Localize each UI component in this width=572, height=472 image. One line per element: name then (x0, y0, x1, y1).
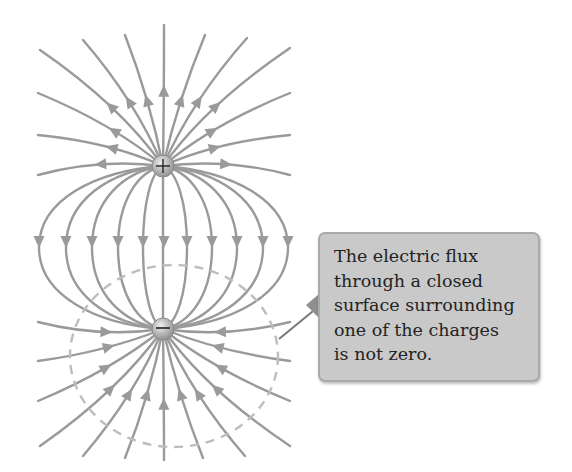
field-line (92, 166, 163, 329)
arrow-icon (190, 386, 206, 402)
arrow-icon (214, 326, 226, 337)
field-line (163, 38, 247, 166)
arrow-icon (210, 340, 224, 354)
arrow-icon (140, 387, 154, 402)
field-line (163, 329, 164, 460)
field-line (38, 329, 163, 401)
arrow-icon (94, 158, 107, 170)
field-line (163, 166, 237, 329)
callout-line-1: The electric flux (334, 244, 528, 269)
arrow-icon (208, 141, 222, 155)
arrow-icon (34, 236, 45, 248)
arrow-icon (98, 360, 114, 376)
arrow-icon (106, 123, 122, 139)
field-line (143, 166, 163, 329)
callout-box: The electric flux through a closed surfa… (318, 232, 540, 382)
callout-line-3: surface surrounding (334, 293, 528, 318)
arrow-icon (232, 236, 243, 248)
callout-line-5: is not zero. (334, 342, 528, 367)
arrow-icon (258, 236, 269, 248)
callout-text: The electric flux through a closed surfa… (334, 244, 528, 367)
arrow-icon (87, 236, 98, 248)
arrow-icon (174, 93, 188, 108)
arrow-icon (205, 123, 221, 139)
negative-charge (152, 318, 174, 340)
arrow-icon (191, 93, 207, 109)
field-line (163, 166, 187, 329)
callout-line-2: through a closed (334, 269, 528, 294)
field-line (40, 50, 163, 166)
arrow-icon (182, 236, 193, 248)
arrow-icon (138, 236, 149, 248)
field-line (163, 329, 290, 361)
arrow-icon (121, 93, 137, 109)
field-line (39, 166, 163, 329)
arrow-icon (121, 386, 137, 402)
arrow-icon (102, 340, 116, 354)
arrow-icon (140, 93, 154, 108)
positive-charge (152, 155, 174, 177)
arrow-icon (113, 236, 124, 248)
arrow-icon (61, 236, 72, 248)
arrow-icon (207, 236, 218, 248)
field-line (83, 329, 163, 456)
callout-line-4: one of the charges (334, 318, 528, 343)
field-line (163, 329, 245, 456)
arrow-icon (220, 158, 233, 170)
arrow-icon (159, 236, 170, 248)
arrow-icon (100, 326, 112, 337)
field-line (118, 166, 163, 329)
arrow-icon (283, 236, 294, 248)
field-line (40, 329, 163, 446)
field-line (163, 48, 290, 166)
arrow-icon (173, 387, 187, 402)
arrow-icon (158, 85, 169, 97)
field-line (163, 166, 288, 329)
arrow-icon (158, 398, 169, 410)
arrow-icon (104, 141, 118, 155)
arrow-icon (212, 360, 228, 375)
